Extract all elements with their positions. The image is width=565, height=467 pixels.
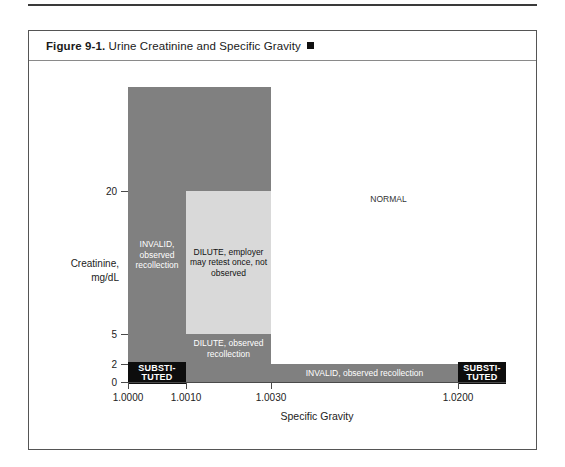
region-invalid-low-label: INVALID, observed recollection <box>306 368 423 379</box>
region-normal-label: NORMAL <box>370 194 406 205</box>
region-substituted-right: SUBSTI- TUTED <box>458 362 506 384</box>
x-axis-tick-label-2: 1.0030 <box>256 392 287 403</box>
figure-caption-title-text: Urine Creatinine and Specific Gravity <box>109 40 301 52</box>
region-dilute-employer-label: DILUTE, employer may retest once, not ob… <box>190 247 267 279</box>
y-axis-title-line1: Creatinine, <box>39 257 119 271</box>
region-substituted-left-label: SUBSTI- TUTED <box>138 364 175 383</box>
region-dilute-observed: DILUTE, observed recollection <box>186 334 271 364</box>
y-axis-tick-1 <box>121 334 128 335</box>
x-axis-line <box>128 382 506 383</box>
y-axis-tick-3 <box>121 382 128 383</box>
figure-caption-bar: Figure 9-1. Urine Creatinine and Specifi… <box>29 31 536 61</box>
region-invalid-low: INVALID, observed recollection <box>271 364 458 382</box>
chart-plot-area: INVALID, observed recollection DILUTE, e… <box>29 61 536 450</box>
x-axis-tick-1 <box>186 382 187 389</box>
y-axis-tick-label-2: 2 <box>89 359 117 370</box>
region-substituted-left: SUBSTI- TUTED <box>128 362 186 384</box>
x-axis-tick-2 <box>271 382 272 389</box>
y-axis-title: Creatinine, mg/dL <box>39 257 119 284</box>
y-axis-tick-0 <box>121 191 128 192</box>
region-dilute-observed-label: DILUTE, observed recollection <box>194 338 264 359</box>
x-axis-title: Specific Gravity <box>128 410 506 422</box>
x-axis-tick-label-1: 1.0010 <box>171 392 202 403</box>
y-axis-tick-label-1: 5 <box>89 329 117 340</box>
y-axis-tick-label-0: 20 <box>89 186 117 197</box>
x-axis-tick-label-0: 1.0000 <box>113 392 144 403</box>
x-axis-tick-label-3: 1.0200 <box>443 392 474 403</box>
region-dilute-employer: DILUTE, employer may retest once, not ob… <box>186 191 271 334</box>
y-axis-tick-label-3: 0 <box>89 377 117 388</box>
figure-caption: Figure 9-1. Urine Creatinine and Specifi… <box>46 40 314 52</box>
page-top-rule <box>28 4 537 6</box>
region-invalid-high-label: INVALID, observed recollection <box>128 239 186 271</box>
figure-caption-number: Figure 9-1. <box>46 40 105 52</box>
region-normal: NORMAL <box>271 189 506 209</box>
figure-container: Figure 9-1. Urine Creatinine and Specifi… <box>28 30 537 450</box>
x-axis-tick-3 <box>458 382 459 389</box>
region-substituted-right-label: SUBSTI- TUTED <box>463 364 500 383</box>
y-axis-title-line2: mg/dL <box>39 271 119 285</box>
y-axis-tick-2 <box>121 364 128 365</box>
x-axis-tick-0 <box>128 382 129 389</box>
square-marker-icon <box>307 42 314 49</box>
